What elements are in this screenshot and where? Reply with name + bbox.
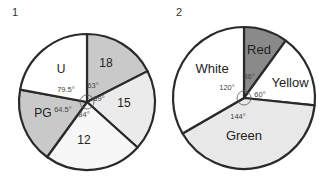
angle-label-18: 63° <box>87 81 98 90</box>
slice-label-18: 18 <box>99 56 113 70</box>
angle-label-yellow: 60° <box>254 90 265 99</box>
pie-charts: 1863°1569°1284°PG64.5°U79.5°Red36°Yellow… <box>0 0 326 178</box>
angle-label-pg: 64.5° <box>54 105 72 114</box>
angle-label-green: 144° <box>230 112 246 121</box>
slice-label-green: Green <box>226 128 262 143</box>
angle-label-white: 120° <box>219 83 235 92</box>
slice-label-pg: PG <box>34 106 51 120</box>
pie-chart-1: 1863°1569°1284°PG64.5°U79.5° <box>19 34 155 170</box>
pie-chart-2: Red36°Yellow60°Green144°White120° <box>173 27 315 169</box>
slice-label-white: White <box>195 61 228 76</box>
slice-label-u: U <box>57 62 66 76</box>
angle-label-12: 84° <box>78 110 89 119</box>
pie-slice-u <box>20 34 87 102</box>
angle-label-u: 79.5° <box>57 85 75 94</box>
slice-label-12: 12 <box>77 133 91 147</box>
slice-label-yellow: Yellow <box>271 75 309 90</box>
slice-label-15: 15 <box>117 96 131 110</box>
angle-label-red: 36° <box>243 72 254 81</box>
angle-label-15: 69° <box>93 94 104 103</box>
slice-label-red: Red <box>247 42 271 57</box>
